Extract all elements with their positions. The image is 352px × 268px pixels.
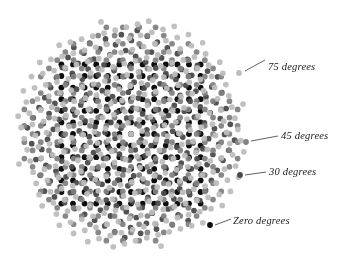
callout-label-75-degrees: 75 degrees: [268, 61, 315, 72]
moire-figure: 75 degrees 45 degrees 30 degrees Zero de…: [0, 0, 352, 268]
callout-label-zero-degrees: Zero degrees: [233, 215, 290, 226]
callout-label-45-degrees: 45 degrees: [281, 130, 328, 141]
callout-label-30-degrees: 30 degrees: [269, 166, 316, 177]
